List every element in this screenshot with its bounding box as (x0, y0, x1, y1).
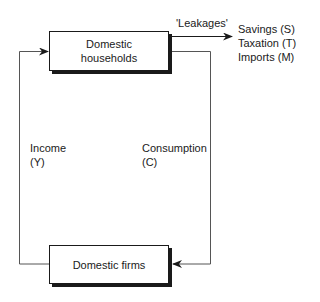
leakage-savings: Savings (S) (238, 22, 296, 36)
income-label-line2: (Y) (30, 155, 66, 169)
leakage-taxation: Taxation (T) (238, 36, 296, 50)
households-node: Domestic households (49, 31, 169, 71)
consumption-label-line2: (C) (142, 155, 207, 169)
income-label-line1: Income (30, 141, 66, 155)
households-label-line1: Domestic (81, 37, 137, 51)
leakages-label: 'Leakages' (176, 17, 228, 30)
firms-node: Domestic firms (49, 245, 169, 284)
consumption-label-line1: Consumption (142, 141, 207, 155)
income-label: Income (Y) (30, 141, 66, 169)
leakage-imports: Imports (M) (238, 50, 296, 64)
leakages-list: Savings (S) Taxation (T) Imports (M) (238, 22, 296, 64)
consumption-label: Consumption (C) (142, 141, 207, 169)
firms-label: Domestic firms (73, 258, 146, 272)
households-label-line2: households (81, 51, 137, 65)
